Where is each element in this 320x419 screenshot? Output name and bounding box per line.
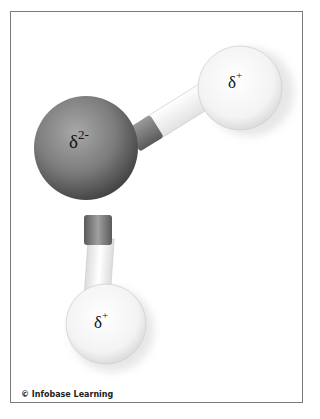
copyright-credit: © Infobase Learning xyxy=(21,390,113,399)
charge-label-oxygen: δ2- xyxy=(69,130,89,151)
charge-label-hydrogen-lower: δ+ xyxy=(94,312,108,331)
charge-label-hydrogen-upper: δ+ xyxy=(228,72,242,91)
water-molecule-diagram xyxy=(0,0,320,419)
